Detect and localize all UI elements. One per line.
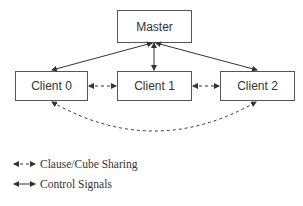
legend-item-control: Control Signals — [14, 178, 112, 191]
legend-item-sharing: Clause/Cube Sharing — [14, 158, 138, 171]
legend: Clause/Cube Sharing Control Signals — [14, 158, 138, 191]
control-arrow-master-client0 — [52, 43, 152, 70]
master-node: Master — [118, 11, 192, 43]
sharing-arrow-client0-client2 — [52, 102, 256, 131]
control-arrow-master-client2 — [156, 43, 257, 70]
client0-node: Client 0 — [16, 72, 88, 101]
client2-node: Client 2 — [221, 72, 295, 101]
legend-sharing-label: Clause/Cube Sharing — [40, 158, 138, 171]
master-label: Master — [136, 20, 173, 34]
client1-node: Client 1 — [118, 72, 192, 101]
diagram-canvas: Master Client 0 Client 1 Client 2 Clause… — [0, 0, 303, 206]
legend-control-label: Control Signals — [40, 178, 112, 191]
client1-label: Client 1 — [134, 79, 175, 93]
client2-label: Client 2 — [237, 79, 278, 93]
client0-label: Client 0 — [31, 79, 72, 93]
